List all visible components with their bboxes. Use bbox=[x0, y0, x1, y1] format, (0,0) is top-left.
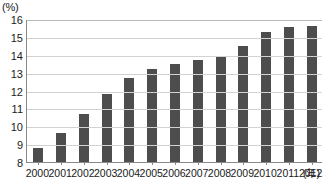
x-axis-tick-mark bbox=[107, 162, 108, 165]
x-axis-tick-mark bbox=[198, 162, 199, 165]
plot-area: 8910111213141516 bbox=[26, 20, 322, 163]
x-axis-tick-label: 2002 bbox=[71, 167, 94, 180]
bar[interactable] bbox=[193, 60, 203, 162]
y-axis-tick-label: 10 bbox=[11, 122, 23, 133]
x-axis-tick-mark bbox=[243, 162, 244, 165]
x-axis-tick-mark bbox=[152, 162, 153, 165]
bar[interactable] bbox=[79, 114, 89, 162]
y-axis-tick-label: 13 bbox=[11, 68, 23, 79]
gridline bbox=[27, 92, 322, 93]
x-axis-tick-label: 2004 bbox=[117, 167, 140, 180]
gridline bbox=[27, 56, 322, 57]
gridline bbox=[27, 127, 322, 128]
x-axis-tick-label: 2003 bbox=[94, 167, 117, 180]
x-axis-tick-mark bbox=[61, 162, 62, 165]
x-axis-tick-mark bbox=[84, 162, 85, 165]
x-axis-unit-label: (年) bbox=[303, 167, 320, 180]
x-axis-tick-label: 2005 bbox=[140, 167, 163, 180]
bar[interactable] bbox=[284, 27, 294, 162]
bar[interactable] bbox=[147, 69, 157, 162]
x-axis-tick-mark bbox=[266, 162, 267, 165]
y-axis-tick-label: 12 bbox=[11, 86, 23, 97]
y-axis-unit-label: (%) bbox=[2, 1, 19, 13]
gridline bbox=[27, 109, 322, 110]
x-axis-tick-mark bbox=[175, 162, 176, 165]
y-axis-tick-label: 11 bbox=[12, 104, 23, 115]
x-axis-tick-mark bbox=[289, 162, 290, 165]
x-axis-tick-mark bbox=[129, 162, 130, 165]
gridline bbox=[27, 20, 322, 21]
x-axis-tick-label: 2006 bbox=[162, 167, 185, 180]
y-axis-tick-label: 8 bbox=[17, 158, 23, 169]
x-axis-tick-labels: 2000200120022003200420052006200720082009… bbox=[26, 167, 322, 183]
x-axis-tick-label: 2001 bbox=[48, 167, 71, 180]
bar[interactable] bbox=[261, 32, 271, 162]
gridline bbox=[27, 38, 322, 39]
x-axis-tick-mark bbox=[38, 162, 39, 165]
bar[interactable] bbox=[56, 133, 66, 162]
x-axis-tick-label: 2007 bbox=[185, 167, 208, 180]
y-axis-tick-label: 16 bbox=[11, 15, 23, 26]
x-axis-tick-mark bbox=[221, 162, 222, 165]
gridline bbox=[27, 145, 322, 146]
x-axis-tick-label: 2000 bbox=[26, 167, 49, 180]
y-axis-tick-label: 14 bbox=[11, 50, 23, 61]
bar[interactable] bbox=[170, 64, 180, 162]
x-axis-tick-label: 2009 bbox=[231, 167, 254, 180]
x-axis-tick-label: 2010 bbox=[253, 167, 276, 180]
x-axis-tick-mark bbox=[312, 162, 313, 165]
gridline bbox=[27, 74, 322, 75]
y-axis-tick-label: 9 bbox=[17, 140, 23, 151]
x-axis-tick-label: 2011 bbox=[277, 167, 300, 180]
bar-chart: (%) 8910111213141516 2000200120022003200… bbox=[0, 0, 335, 191]
bar[interactable] bbox=[33, 148, 43, 162]
x-axis-tick-label: 2008 bbox=[208, 167, 231, 180]
y-axis-tick-label: 15 bbox=[11, 32, 23, 43]
bar[interactable] bbox=[307, 26, 317, 162]
